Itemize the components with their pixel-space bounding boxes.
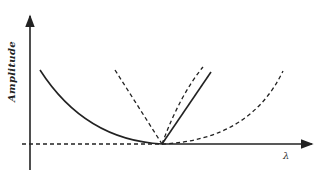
solid-increasing-line — [162, 72, 211, 144]
dashed-steep-left-line — [115, 70, 162, 144]
solid-decreasing-curve — [40, 70, 162, 144]
y-axis-label: Amplitude — [6, 41, 17, 102]
dashed-steep-right-curve — [162, 67, 203, 144]
x-axis-label: λ — [283, 150, 289, 161]
dashed-shallow-parabola — [162, 71, 283, 144]
amplitude-diagram — [0, 0, 328, 184]
